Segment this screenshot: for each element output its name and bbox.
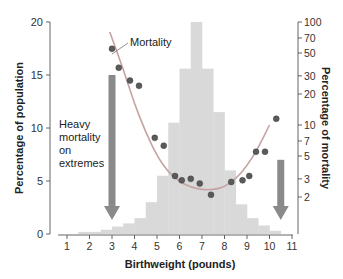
mortality-data-point — [179, 177, 185, 183]
y2-tick-label: 2 — [304, 191, 310, 203]
x-tick-label: 1 — [64, 240, 70, 252]
mortality-data-point — [253, 149, 259, 155]
histogram-bar — [213, 112, 225, 234]
x-tick-label: 9 — [244, 240, 250, 252]
heavy-mortality-label-3: on — [59, 144, 71, 156]
birthweight-mortality-chart: 05101520123456789101123571020305070100 M… — [0, 0, 343, 279]
y-tick-label: 0 — [37, 228, 43, 240]
y-tick-label: 10 — [31, 122, 43, 134]
x-tick-label: 4 — [132, 240, 138, 252]
x-tick-label: 11 — [287, 240, 298, 252]
histogram-bar — [258, 226, 270, 234]
mortality-data-point — [273, 116, 279, 122]
x-tick-label: 5 — [154, 240, 160, 252]
y2-tick-label: 3 — [304, 173, 310, 185]
y2-tick-label: 7 — [304, 135, 310, 147]
histogram-bar — [101, 230, 113, 234]
mortality-data-point — [136, 83, 142, 89]
mortality-data-point — [172, 173, 178, 179]
mortality-data-point — [161, 143, 167, 149]
heavy-mortality-label-2: mortality — [59, 131, 101, 143]
histogram-bar — [180, 69, 192, 234]
y-tick-label: 20 — [31, 16, 43, 28]
y-tick-label: 15 — [31, 69, 43, 81]
y-axis-label: Percentage of population — [13, 62, 25, 194]
histogram-bar — [123, 223, 135, 234]
y2-tick-label: 20 — [304, 88, 316, 100]
mortality-callout: Mortality — [130, 36, 172, 48]
heavy-mortality-label-4: extremes — [59, 157, 105, 169]
mortality-data-point — [208, 192, 214, 198]
histogram-bar — [191, 22, 203, 234]
mortality-data-point — [262, 149, 268, 155]
histogram-bar — [146, 202, 158, 234]
x-tick-label: 2 — [87, 240, 93, 252]
x-tick-label: 3 — [109, 240, 115, 252]
mortality-data-point — [127, 78, 133, 84]
x-tick-label: 7 — [199, 240, 205, 252]
heavy-mortality-label-1: Heavy — [59, 118, 91, 130]
mortality-data-point — [228, 179, 234, 185]
y2-tick-label: 100 — [304, 16, 322, 28]
mortality-data-point — [152, 135, 158, 141]
y2-tick-label: 10 — [304, 119, 316, 131]
down-arrow-icon — [273, 206, 289, 220]
mortality-data-point — [240, 177, 246, 183]
x-tick-label: 10 — [264, 240, 276, 252]
mortality-data-point — [246, 173, 252, 179]
y2-tick-label: 50 — [304, 47, 316, 59]
y2-tick-label: 5 — [304, 150, 310, 162]
mortality-data-point — [116, 65, 122, 71]
y2-axis-label: Percentage of mortality — [320, 67, 332, 190]
down-arrow-icon — [104, 206, 120, 220]
histogram-bar — [236, 204, 248, 234]
mortality-data-point — [188, 176, 194, 182]
x-axis-label: Birthweight (pounds) — [125, 258, 236, 270]
histogram-bar — [202, 69, 214, 234]
histogram-bar — [112, 227, 124, 234]
histogram-bar — [247, 218, 259, 234]
x-tick-label: 8 — [222, 240, 228, 252]
histogram-bar — [78, 232, 101, 234]
histogram-bar — [135, 218, 147, 234]
histogram-bar — [270, 231, 282, 234]
y2-tick-label: 30 — [304, 70, 316, 82]
histogram-bar — [157, 176, 169, 234]
y2-tick-label: 70 — [304, 32, 316, 44]
x-tick-label: 6 — [177, 240, 183, 252]
mortality-data-point — [109, 46, 115, 52]
mortality-data-point — [197, 181, 203, 187]
y-tick-label: 5 — [37, 175, 43, 187]
